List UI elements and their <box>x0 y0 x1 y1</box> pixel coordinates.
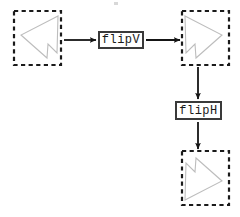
operation-box-flipv[interactable]: flipV <box>98 31 144 49</box>
operation-box-fliph[interactable]: flipH <box>175 101 222 120</box>
output-shape-panel <box>182 151 229 205</box>
arrow-polygon-pointing-left <box>21 16 58 58</box>
input-shape-panel <box>14 11 61 65</box>
operation-label-fliph: flipH <box>179 105 218 117</box>
operation-label-flipv: flipV <box>102 34 141 46</box>
dashed-frame <box>14 11 61 65</box>
intermediate-shape-panel <box>182 11 229 65</box>
diagram-canvas: flipV flipH <box>0 0 240 217</box>
arrow-polygon-pointing-right-flipped <box>185 158 222 200</box>
dashed-frame <box>182 151 229 205</box>
dashed-frame <box>182 11 229 65</box>
page-artifact-mark <box>114 2 118 5</box>
arrow-polygon-pointing-right <box>185 16 222 58</box>
